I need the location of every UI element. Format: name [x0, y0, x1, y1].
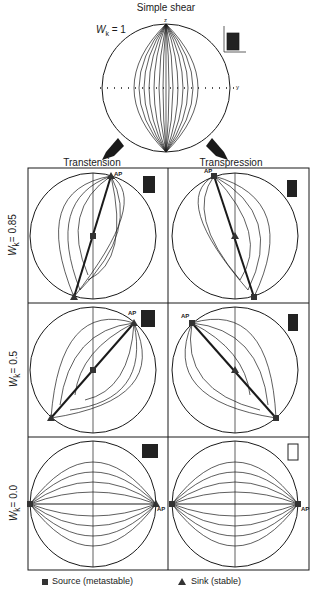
- row-label-sub: k: [11, 242, 21, 246]
- column-title-transpression: Transpression: [196, 157, 266, 168]
- row-label-prefix: W: [8, 378, 19, 387]
- row-label-prefix: W: [7, 246, 18, 255]
- ap-label: AP: [301, 506, 309, 512]
- source-marker-icon: [189, 320, 195, 326]
- transtension-inset-icon: [143, 176, 155, 193]
- column-title-transtension: Transtension: [60, 157, 124, 168]
- legend-sink-icon: [178, 578, 186, 585]
- legend-source-label: Source (metastable): [52, 576, 133, 586]
- simple-shear-stereonet: [100, 24, 234, 152]
- row-label-05: Wk= 0.5: [8, 344, 22, 394]
- source-marker-icon: [90, 233, 96, 239]
- legend-source-icon: [42, 579, 48, 585]
- panel-grid: [28, 168, 309, 570]
- legend-source: Source (metastable): [52, 576, 133, 586]
- axis-z-label: z: [164, 17, 167, 23]
- source-marker-icon: [27, 501, 33, 507]
- transpression-inset-icon: [288, 314, 298, 331]
- transpression-inset-icon: [287, 180, 297, 197]
- source-marker-icon: [169, 501, 175, 507]
- ap-label: AP: [114, 171, 122, 177]
- simple-shear-inset-icon: [224, 26, 246, 52]
- row-label-085: Wk= 0.85: [7, 207, 21, 263]
- row-label-value: = 0.85: [7, 214, 18, 242]
- axis-y-label: y: [236, 84, 239, 90]
- ap-label: AP: [204, 168, 212, 174]
- source-marker-icon: [251, 294, 257, 300]
- transtension-inset-icon: [141, 310, 155, 327]
- legend-sink: Sink (stable): [191, 576, 241, 586]
- source-marker-icon: [90, 367, 96, 373]
- markers: [27, 172, 301, 507]
- panel-transpression-00: [172, 441, 298, 567]
- panel-transtension-00: [30, 441, 156, 567]
- row-label-value: = 0.0: [8, 485, 19, 508]
- legend-sink-label: Sink (stable): [191, 576, 241, 586]
- ap-label: AP: [181, 313, 189, 319]
- row-label-sub: k: [12, 373, 22, 377]
- row-label-sub: k: [12, 507, 22, 511]
- source-marker-icon: [273, 415, 279, 421]
- ap-label: AP: [128, 310, 136, 316]
- transtension-inset-icon: [142, 444, 158, 458]
- row-label-value: = 0.5: [8, 351, 19, 374]
- row-label-00: Wk= 0.0: [8, 478, 22, 528]
- ap-label: AP: [157, 506, 165, 512]
- row-label-prefix: W: [8, 512, 19, 521]
- transpression-inset-icon: [288, 444, 298, 460]
